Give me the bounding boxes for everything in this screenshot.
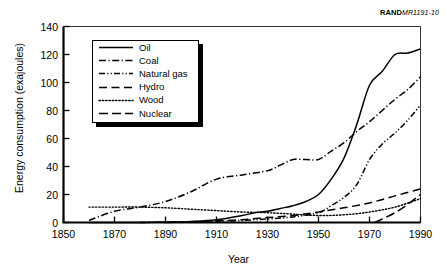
x-tick-label: 1910 xyxy=(194,228,240,240)
source-id-label: RANDMR1191-10 xyxy=(380,8,439,17)
legend-swatch-icon xyxy=(98,108,134,119)
series-line-wood xyxy=(89,199,421,216)
y-tick-label: 0 xyxy=(18,218,58,228)
legend-swatch-icon xyxy=(98,95,134,106)
x-tick-label: 1990 xyxy=(398,228,444,240)
source-id-number: MR1191-10 xyxy=(402,9,439,16)
legend-item-natural-gas: Natural gas xyxy=(93,67,198,80)
x-tick-label: 1870 xyxy=(92,228,138,240)
y-tick-label: 20 xyxy=(18,190,58,200)
legend-item-oil: Oil xyxy=(93,41,198,54)
legend-swatch-icon xyxy=(98,55,134,66)
legend-label: Nuclear xyxy=(139,109,172,119)
y-tick-label: 100 xyxy=(18,78,58,88)
x-axis-title: Year xyxy=(0,253,447,265)
legend-item-hydro: Hydro xyxy=(93,81,198,94)
y-tick-label: 140 xyxy=(18,22,58,32)
x-tick-label: 1850 xyxy=(41,228,87,240)
y-tick-label: 60 xyxy=(18,134,58,144)
chart-legend: OilCoalNatural gasHydroWoodNuclear xyxy=(92,40,199,123)
legend-label: Hydro xyxy=(139,82,164,92)
legend-item-nuclear: Nuclear xyxy=(93,107,198,120)
x-tick-label: 1930 xyxy=(245,228,291,240)
legend-item-coal: Coal xyxy=(93,54,198,67)
x-tick-label: 1950 xyxy=(296,228,342,240)
y-tick-label: 120 xyxy=(18,50,58,60)
x-tick-label: 1970 xyxy=(347,228,393,240)
legend-label: Natural gas xyxy=(139,69,188,79)
legend-item-wood: Wood xyxy=(93,94,198,107)
energy-consumption-chart: RANDMR1191-10 Energy consumption (exajou… xyxy=(0,0,447,275)
y-tick-label: 80 xyxy=(18,106,58,116)
source-id-rand: RAND xyxy=(380,8,402,17)
series-line-nuclear xyxy=(375,195,421,223)
legend-swatch-icon xyxy=(98,68,134,79)
x-tick-label: 1890 xyxy=(143,228,189,240)
legend-swatch-icon xyxy=(98,42,134,53)
legend-label: Coal xyxy=(139,56,159,66)
legend-swatch-icon xyxy=(98,82,134,93)
y-tick-label: 40 xyxy=(18,162,58,172)
legend-label: Wood xyxy=(139,95,164,105)
legend-label: Oil xyxy=(139,43,151,53)
